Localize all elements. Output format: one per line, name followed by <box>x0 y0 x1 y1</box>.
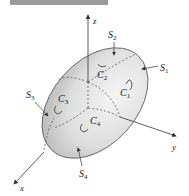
y-axis-label: y <box>171 142 176 152</box>
surface-s4-label: S4 <box>79 168 88 181</box>
surface-s2-label: S2 <box>108 29 117 42</box>
z-axis-label: z <box>92 16 97 26</box>
surface-s1-label: S1 <box>160 62 169 75</box>
x-axis <box>14 152 44 184</box>
surface-s3-label: S3 <box>26 89 35 102</box>
ellipsoid-surface <box>21 27 169 178</box>
x-axis-label: x <box>19 183 24 193</box>
ellipsoid-diagram: z y x S1 S2 S3 S4 C1 C2 C3 C4 <box>0 0 189 196</box>
